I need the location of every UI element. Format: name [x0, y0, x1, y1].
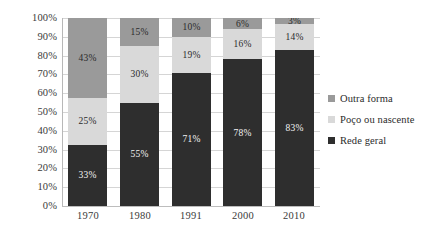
legend-swatch-icon [328, 95, 335, 102]
bar-segment: 6% [223, 18, 262, 29]
legend-swatch-icon [328, 116, 335, 123]
axis-baseline [62, 206, 320, 207]
y-tick-label: 100% [0, 12, 57, 24]
bar-segment-label: 19% [182, 50, 200, 60]
y-tick-label: 70% [0, 68, 57, 80]
bar-segment-label: 78% [233, 128, 251, 138]
bar-segment-label: 33% [78, 170, 96, 180]
y-tick-label: 0% [0, 200, 57, 212]
bar-segment: 78% [223, 59, 262, 206]
legend-item[interactable]: Rede geral [328, 130, 440, 151]
y-tick-label: 60% [0, 87, 57, 99]
bar-segment-label: 55% [130, 149, 148, 159]
stacked-bar-chart: 0%10%20%30%40%50%60%70%80%90%100% 43%25%… [0, 0, 441, 238]
bar-stack: 10%19%71% [172, 18, 211, 206]
plot-area: 43%25%33%15%30%55%10%19%71%6%16%78%3%14%… [62, 18, 320, 206]
bar-stack: 6%16%78% [223, 18, 262, 206]
y-tick-label: 50% [0, 106, 57, 118]
x-tick-label: 1970 [62, 209, 114, 223]
y-tick-label: 10% [0, 181, 57, 193]
y-axis-tick-labels: 0%10%20%30%40%50%60%70%80%90%100% [0, 12, 57, 200]
legend-label: Outra forma [340, 93, 393, 105]
bar-segment-label: 30% [130, 69, 148, 79]
bar-segment-label: 43% [78, 53, 96, 63]
bar-column: 3%14%83% [275, 18, 314, 206]
bar-stack: 43%25%33% [68, 18, 107, 206]
bar-segment: 25% [68, 98, 107, 145]
bar-segment: 71% [172, 73, 211, 206]
x-tick-label: 1991 [165, 209, 217, 223]
bar-segment-label: 83% [285, 123, 303, 133]
bar-segment: 15% [120, 18, 159, 46]
bar-segment: 55% [120, 103, 159, 206]
y-tick-label: 40% [0, 125, 57, 137]
x-tick-label: 2010 [268, 209, 320, 223]
bar-column: 43%25%33% [68, 18, 107, 206]
x-axis-tick-labels: 19701980199120002010 [62, 209, 320, 227]
y-tick-label: 90% [0, 31, 57, 43]
bar-segment-label: 25% [78, 116, 96, 126]
bar-segment: 30% [120, 46, 159, 102]
y-tick-label: 20% [0, 162, 57, 174]
legend-item[interactable]: Outra forma [328, 88, 440, 109]
bar-segment: 10% [172, 18, 211, 37]
bar-column: 15%30%55% [120, 18, 159, 206]
bar-segment-label: 16% [233, 39, 251, 49]
bar-segment: 14% [275, 24, 314, 50]
y-tick-label: 80% [0, 50, 57, 62]
legend-swatch-icon [328, 137, 335, 144]
legend-label: Poço ou nascente [340, 114, 415, 126]
bar-segment: 16% [223, 29, 262, 59]
bar-segment-label: 10% [182, 22, 200, 32]
legend-label: Rede geral [340, 135, 386, 147]
bar-stack: 15%30%55% [120, 18, 159, 206]
bar-stack: 3%14%83% [275, 18, 314, 206]
bar-column: 6%16%78% [223, 18, 262, 206]
bar-columns: 43%25%33%15%30%55%10%19%71%6%16%78%3%14%… [62, 18, 320, 206]
x-tick-label: 2000 [217, 209, 269, 223]
y-tick-label: 30% [0, 144, 57, 156]
bar-segment: 19% [172, 37, 211, 73]
bar-segment: 83% [275, 50, 314, 206]
x-tick-label: 1980 [114, 209, 166, 223]
bar-segment-label: 6% [236, 19, 249, 29]
bar-segment-label: 14% [285, 32, 303, 42]
bar-segment-label: 71% [182, 134, 200, 144]
chart-legend: Outra formaPoço ou nascenteRede geral [328, 88, 440, 151]
bar-column: 10%19%71% [172, 18, 211, 206]
legend-item[interactable]: Poço ou nascente [328, 109, 440, 130]
bar-segment: 33% [68, 145, 107, 206]
bar-segment: 43% [68, 18, 107, 98]
bar-segment-label: 15% [130, 27, 148, 37]
